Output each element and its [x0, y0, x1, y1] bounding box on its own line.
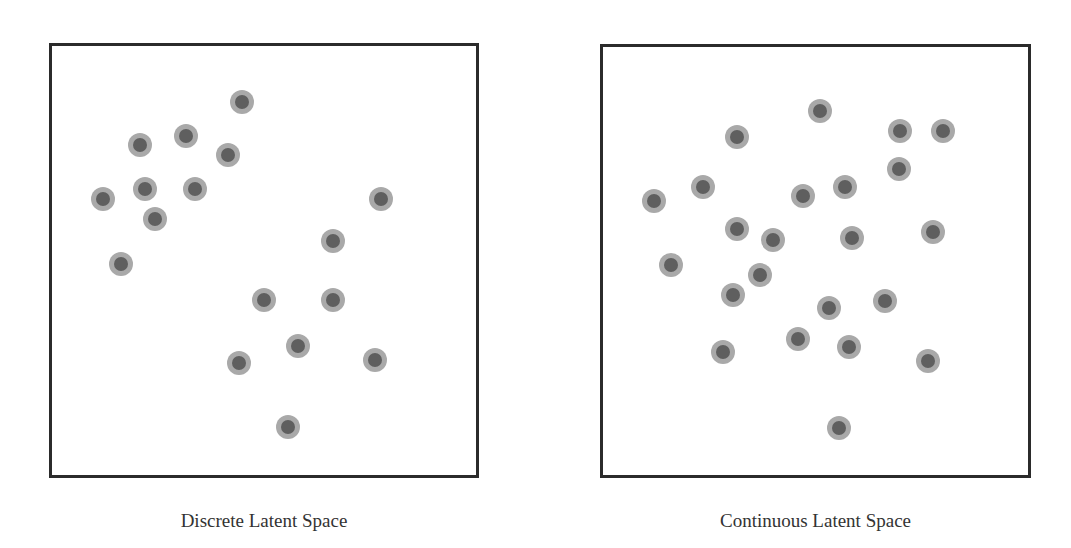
latent-point: [216, 143, 240, 167]
latent-point: [133, 177, 157, 201]
latent-point: [725, 125, 749, 149]
latent-point: [143, 207, 167, 231]
latent-point: [833, 175, 857, 199]
latent-point: [887, 157, 911, 181]
latent-point: [321, 288, 345, 312]
continuous-caption: Continuous Latent Space: [600, 510, 1031, 532]
latent-point: [286, 334, 310, 358]
latent-point: [761, 228, 785, 252]
latent-point: [748, 263, 772, 287]
latent-point: [642, 189, 666, 213]
latent-point: [725, 217, 749, 241]
latent-point: [791, 184, 815, 208]
latent-point: [931, 119, 955, 143]
latent-point: [840, 226, 864, 250]
latent-point: [691, 175, 715, 199]
latent-point: [230, 90, 254, 114]
latent-point: [888, 119, 912, 143]
latent-point: [363, 348, 387, 372]
latent-point: [916, 349, 940, 373]
latent-point: [721, 283, 745, 307]
latent-point: [921, 220, 945, 244]
latent-point: [837, 335, 861, 359]
latent-point: [711, 340, 735, 364]
latent-point: [808, 99, 832, 123]
latent-point: [827, 416, 851, 440]
latent-point: [109, 252, 133, 276]
latent-point: [91, 187, 115, 211]
latent-point: [321, 229, 345, 253]
latent-point: [873, 289, 897, 313]
latent-point: [369, 187, 393, 211]
latent-point: [786, 327, 810, 351]
latent-point: [252, 288, 276, 312]
latent-point: [659, 253, 683, 277]
latent-point: [183, 177, 207, 201]
discrete-caption: Discrete Latent Space: [49, 510, 479, 532]
latent-point: [227, 351, 251, 375]
latent-point: [128, 133, 152, 157]
latent-point: [276, 415, 300, 439]
latent-point: [817, 296, 841, 320]
latent-point: [174, 124, 198, 148]
